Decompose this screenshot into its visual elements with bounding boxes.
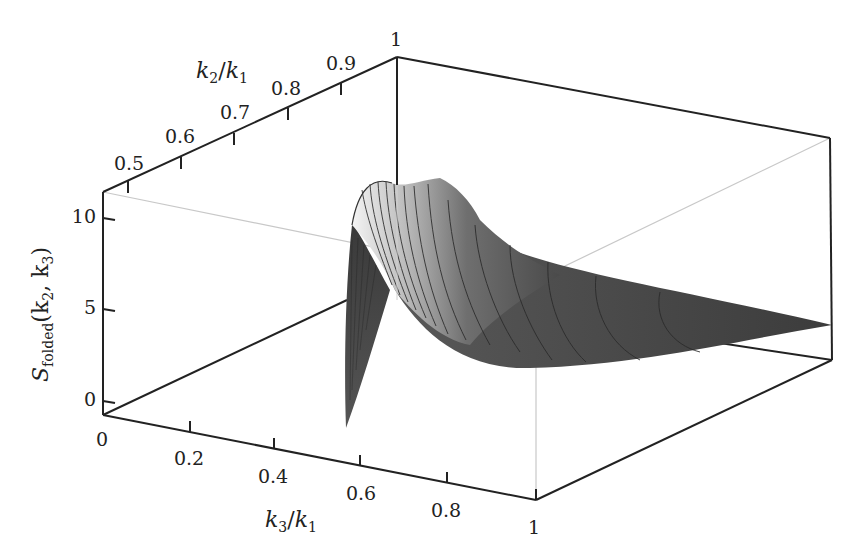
svg-text:1: 1 xyxy=(528,516,540,538)
x-axis-tick-labels: 0 0.2 0.4 0.6 0.8 1 xyxy=(96,428,540,538)
svg-text:0: 0 xyxy=(84,388,96,410)
y-axis-ticks xyxy=(128,83,341,193)
svg-text:10: 10 xyxy=(72,205,96,227)
svg-text:0.6: 0.6 xyxy=(165,125,195,147)
svg-text:0.5: 0.5 xyxy=(114,152,144,174)
z-axis-label: Sfolded(k2, k3) xyxy=(28,247,56,382)
surface xyxy=(345,178,832,428)
svg-text:0.6: 0.6 xyxy=(346,482,376,504)
y-axis-tick-labels: 0.5 0.6 0.7 0.8 0.9 1 xyxy=(114,28,402,174)
svg-text:0.9: 0.9 xyxy=(326,52,356,74)
z-axis-ticks xyxy=(103,218,115,403)
surface-plot: 10 5 0 0 0.2 0.4 0.6 0.8 1 0.5 0.6 0.7 0… xyxy=(0,0,866,558)
svg-text:5: 5 xyxy=(84,296,96,318)
z-axis-tick-labels: 10 5 0 xyxy=(72,205,96,410)
x-axis-label: k3/k1 xyxy=(265,507,317,535)
svg-text:0.8: 0.8 xyxy=(431,499,461,521)
y-axis-label: k2/k1 xyxy=(196,58,248,86)
svg-text:0.8: 0.8 xyxy=(271,77,301,99)
svg-text:0.7: 0.7 xyxy=(220,101,250,123)
svg-text:0.2: 0.2 xyxy=(174,447,204,469)
svg-text:0.4: 0.4 xyxy=(258,465,288,487)
svg-text:1: 1 xyxy=(390,28,402,50)
svg-text:0: 0 xyxy=(96,428,108,450)
